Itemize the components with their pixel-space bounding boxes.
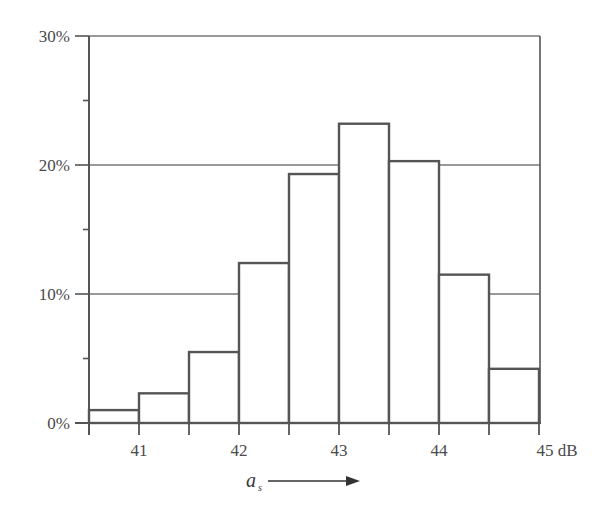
x-tick-label: 42 — [231, 441, 248, 460]
bar-4 — [289, 174, 339, 423]
y-axis-ticks: 0%10%20%30% — [39, 27, 89, 433]
y-tick-label: 30% — [39, 27, 70, 46]
bar-8 — [489, 369, 539, 423]
y-tick-label: 0% — [47, 414, 70, 433]
bar-5 — [339, 124, 389, 423]
bar-7 — [439, 275, 489, 423]
x-tick-label: 45 dB — [536, 441, 577, 460]
bar-1 — [139, 393, 189, 423]
x-axis-label: a s — [246, 469, 360, 493]
x-axis-label-subscript: s — [258, 482, 262, 493]
bar-3 — [239, 263, 289, 423]
bar-6 — [389, 161, 439, 423]
x-axis-ticks: 4142434445 dB — [89, 423, 578, 460]
bar-0 — [89, 410, 139, 423]
x-tick-label: 44 — [431, 441, 449, 460]
x-tick-label: 41 — [131, 441, 148, 460]
arrow-right-icon — [346, 476, 360, 486]
bars — [89, 124, 539, 423]
y-tick-label: 10% — [39, 285, 70, 304]
y-tick-label: 20% — [39, 156, 70, 175]
x-axis-label-main: a — [246, 469, 256, 491]
bar-2 — [189, 352, 239, 423]
x-tick-label: 43 — [331, 441, 348, 460]
histogram-chart: 0%10%20%30% 4142434445 dB a s — [0, 0, 612, 518]
